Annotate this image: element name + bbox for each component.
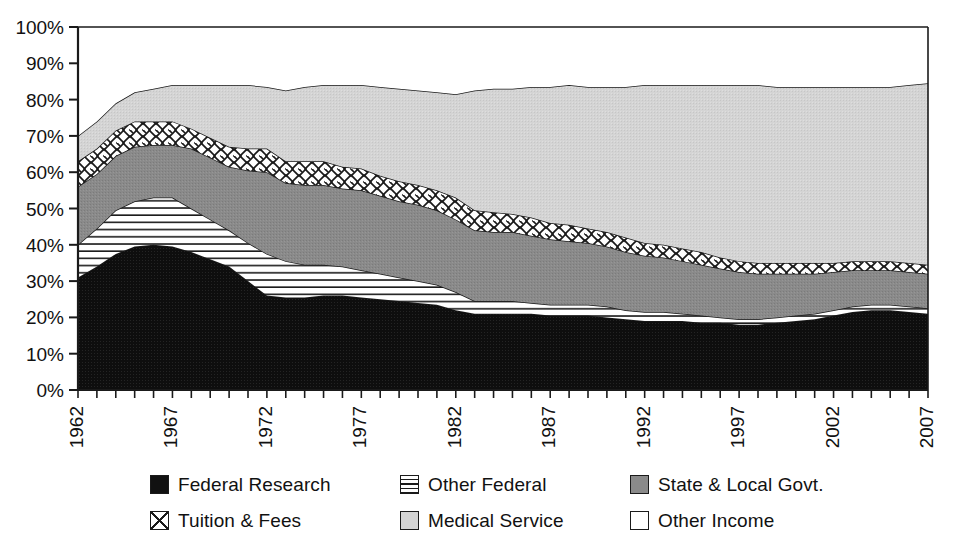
y-tick-label: 70% xyxy=(26,126,64,147)
legend-item-other-income: Other Income xyxy=(630,511,900,530)
legend-item-medical-service: Medical Service xyxy=(400,511,630,530)
x-tick-label: 1962 xyxy=(66,406,87,448)
legend-item-tuition-fees: Tuition & Fees xyxy=(150,511,400,530)
legend-label-other-federal: Other Federal xyxy=(428,475,547,494)
y-tick-label: 50% xyxy=(26,199,64,220)
y-tick-label: 80% xyxy=(26,90,64,111)
legend-swatch-other-federal xyxy=(400,475,419,494)
chart-legend: Federal Research Other Federal State & L… xyxy=(150,466,940,538)
y-tick-label: 100% xyxy=(15,17,64,38)
y-tick-label: 10% xyxy=(26,344,64,365)
chart-canvas: 0%10%20%30%40%50%60%70%80%90%100% 196219… xyxy=(0,0,954,542)
legend-item-federal-research: Federal Research xyxy=(150,475,400,494)
legend-item-other-federal: Other Federal xyxy=(400,475,630,494)
stacked-areas xyxy=(78,27,928,390)
legend-label-tuition-fees: Tuition & Fees xyxy=(178,511,301,530)
stacked-area-chart: 0%10%20%30%40%50%60%70%80%90%100% 196219… xyxy=(0,0,954,542)
x-tick-label: 1992 xyxy=(633,406,654,448)
y-tick-label: 30% xyxy=(26,271,64,292)
legend-label-medical-service: Medical Service xyxy=(428,511,564,530)
y-tick-label: 90% xyxy=(26,53,64,74)
x-tick-label: 1967 xyxy=(160,406,181,448)
y-tick-label: 0% xyxy=(37,380,65,401)
x-tick-label: 2002 xyxy=(822,406,843,448)
y-tick-label: 60% xyxy=(26,162,64,183)
x-tick-label: 2007 xyxy=(916,406,937,448)
legend-swatch-federal-research xyxy=(150,475,169,494)
legend-label-federal-research: Federal Research xyxy=(178,475,331,494)
legend-swatch-state-local-govt xyxy=(630,475,649,494)
x-axis-tick-labels: 1962196719721977198219871992199720022007 xyxy=(66,406,937,448)
legend-swatch-tuition-fees xyxy=(150,511,169,530)
y-tick-label: 40% xyxy=(26,235,64,256)
legend-item-state-local-govt: State & Local Govt. xyxy=(630,475,900,494)
x-tick-label: 1987 xyxy=(538,406,559,448)
y-tick-label: 20% xyxy=(26,307,64,328)
legend-swatch-medical-service xyxy=(400,511,419,530)
x-axis-ticks xyxy=(78,390,928,398)
legend-swatch-other-income xyxy=(630,511,649,530)
y-axis-tick-labels: 0%10%20%30%40%50%60%70%80%90%100% xyxy=(15,17,64,401)
legend-label-state-local-govt: State & Local Govt. xyxy=(658,475,824,494)
y-axis-ticks xyxy=(69,27,78,390)
x-tick-label: 1977 xyxy=(349,406,370,448)
x-tick-label: 1982 xyxy=(444,406,465,448)
x-tick-label: 1972 xyxy=(255,406,276,448)
legend-label-other-income: Other Income xyxy=(658,511,774,530)
x-tick-label: 1997 xyxy=(727,406,748,448)
